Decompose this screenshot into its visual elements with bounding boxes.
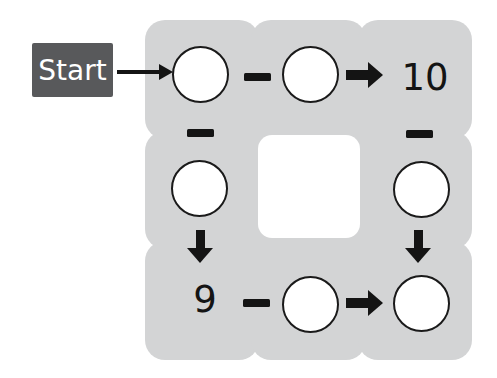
answer-circle-top-middle[interactable] bbox=[282, 46, 339, 103]
arrow-head bbox=[187, 248, 213, 263]
answer-circle-bottom-middle[interactable] bbox=[282, 276, 339, 333]
arrow-right-icon-bottom bbox=[346, 290, 383, 316]
arrow-head bbox=[405, 248, 431, 263]
center-hole bbox=[258, 135, 360, 238]
arrow-head bbox=[159, 64, 173, 80]
arrow-shaft bbox=[346, 70, 368, 80]
arrow-line bbox=[117, 70, 162, 74]
answer-circle-middle-left[interactable] bbox=[171, 160, 228, 217]
minus-operator-icon-bottom bbox=[243, 299, 270, 307]
start-arrow-icon bbox=[117, 64, 173, 80]
given-number-bottom-left: 9 bbox=[180, 279, 230, 319]
arrow-shaft bbox=[196, 230, 205, 250]
arrow-down-icon-right bbox=[405, 230, 431, 263]
worksheet-diagram: Start 1 bbox=[0, 0, 497, 378]
minus-operator-icon-top bbox=[244, 73, 271, 81]
given-number-top-right: 10 bbox=[400, 57, 450, 97]
arrow-head bbox=[368, 62, 383, 88]
arrow-right-icon-top bbox=[346, 62, 383, 88]
arrow-shaft bbox=[414, 230, 423, 250]
arrow-shaft bbox=[346, 298, 368, 308]
minus-operator-icon-right bbox=[406, 130, 433, 138]
answer-circle-top-left[interactable] bbox=[172, 46, 229, 103]
start-label-box: Start bbox=[32, 43, 113, 97]
answer-circle-middle-right[interactable] bbox=[393, 161, 450, 218]
answer-circle-bottom-right[interactable] bbox=[393, 275, 450, 332]
arrow-head bbox=[368, 290, 383, 316]
start-label: Start bbox=[38, 54, 106, 87]
minus-operator-icon-left bbox=[187, 129, 214, 137]
arrow-down-icon-left bbox=[187, 230, 213, 263]
